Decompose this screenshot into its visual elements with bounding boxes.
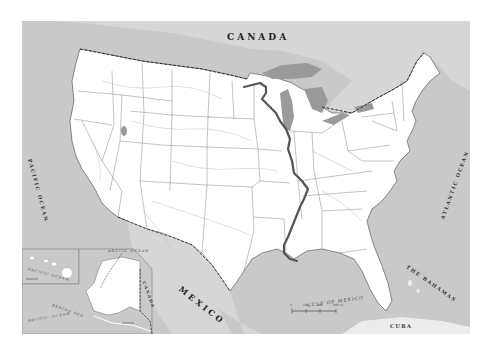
scale-label-100: 100 <box>303 303 309 307</box>
inset-hawaii <box>22 249 79 284</box>
label-cuba: CUBA <box>390 323 412 329</box>
scale-label-200: 200 <box>317 303 323 307</box>
scale-label-300: 300 mi <box>333 303 343 307</box>
map-frame: CANADA MEXICO PACIFIC OCEAN ATLANTIC OCE… <box>22 21 470 334</box>
lake-superior <box>262 63 322 79</box>
scale-label-0: 0 <box>290 303 292 307</box>
label-arctic-ocean: ARCTIC OCEAN <box>108 249 149 253</box>
map-canvas[interactable] <box>22 21 470 334</box>
label-canada: CANADA <box>227 32 289 42</box>
great-salt-lake <box>121 126 127 136</box>
